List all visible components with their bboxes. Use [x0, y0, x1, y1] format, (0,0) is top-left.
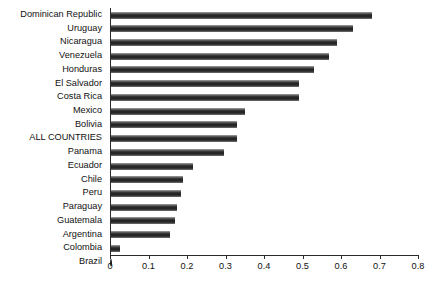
category-label: Panama: [0, 145, 106, 159]
x-tick-label: 0.5: [288, 261, 318, 271]
bar-row: [110, 49, 418, 63]
category-label: Uruguay: [0, 22, 106, 36]
bar: [110, 121, 237, 128]
y-axis-line: [110, 8, 111, 255]
bar-row: [110, 159, 418, 173]
category-label: Honduras: [0, 63, 106, 77]
bar: [110, 231, 170, 238]
x-tick-label: 0: [95, 261, 125, 271]
bar: [110, 217, 175, 224]
bar: [110, 25, 353, 32]
bar-row: [110, 131, 418, 145]
bar-row: [110, 8, 418, 22]
bar: [110, 190, 181, 197]
x-tick: [418, 255, 419, 259]
bar: [110, 204, 177, 211]
category-label: Nicaragua: [0, 35, 106, 49]
x-tick: [149, 255, 150, 259]
bar: [110, 80, 299, 87]
horizontal-bar-chart: Dominican RepublicUruguayNicaraguaVenezu…: [0, 0, 439, 288]
x-tick: [303, 255, 304, 259]
bar-row: [110, 173, 418, 187]
bar: [110, 163, 193, 170]
category-label: Ecuador: [0, 159, 106, 173]
bar-row: [110, 200, 418, 214]
category-label: Chile: [0, 173, 106, 187]
bar: [110, 39, 337, 46]
bar-row: [110, 241, 418, 255]
category-label: Colombia: [0, 241, 106, 255]
bar-row: [110, 35, 418, 49]
x-tick: [341, 255, 342, 259]
bar-row: [110, 214, 418, 228]
category-label: Costa Rica: [0, 90, 106, 104]
category-label: Bolivia: [0, 118, 106, 132]
bar-row: [110, 63, 418, 77]
x-tick: [187, 255, 188, 259]
category-label: Mexico: [0, 104, 106, 118]
bar-row: [110, 228, 418, 242]
bar: [110, 12, 372, 19]
x-tick-label: 0.6: [326, 261, 356, 271]
bar-row: [110, 118, 418, 132]
bar: [110, 108, 245, 115]
x-tick: [380, 255, 381, 259]
x-tick: [226, 255, 227, 259]
x-tick-label: 0.7: [365, 261, 395, 271]
x-tick-label: 0.3: [211, 261, 241, 271]
bar: [110, 53, 329, 60]
bar-row: [110, 145, 418, 159]
bar: [110, 66, 314, 73]
category-label: Peru: [0, 186, 106, 200]
category-axis-labels: Dominican RepublicUruguayNicaraguaVenezu…: [0, 8, 106, 255]
bar: [110, 135, 237, 142]
x-tick: [264, 255, 265, 259]
bar-row: [110, 90, 418, 104]
x-tick: [110, 255, 111, 259]
category-label: Guatemala: [0, 214, 106, 228]
category-label: Dominican Republic: [0, 8, 106, 22]
bar-row: [110, 77, 418, 91]
category-label: El Salvador: [0, 77, 106, 91]
x-tick-label: 0.1: [134, 261, 164, 271]
bar: [110, 149, 224, 156]
bar: [110, 176, 183, 183]
plot-area: [110, 8, 418, 255]
bar: [110, 94, 299, 101]
x-tick-label: 0.4: [249, 261, 279, 271]
bar: [110, 245, 120, 252]
category-label: ALL COUNTRIES: [0, 131, 106, 145]
category-label: Brazil: [0, 255, 106, 269]
x-tick-label: 0.2: [172, 261, 202, 271]
category-label: Paraguay: [0, 200, 106, 214]
category-label: Venezuela: [0, 49, 106, 63]
category-label: Argentina: [0, 228, 106, 242]
bar-row: [110, 186, 418, 200]
bar-row: [110, 104, 418, 118]
bar-row: [110, 22, 418, 36]
x-tick-label: 0.8: [403, 261, 433, 271]
